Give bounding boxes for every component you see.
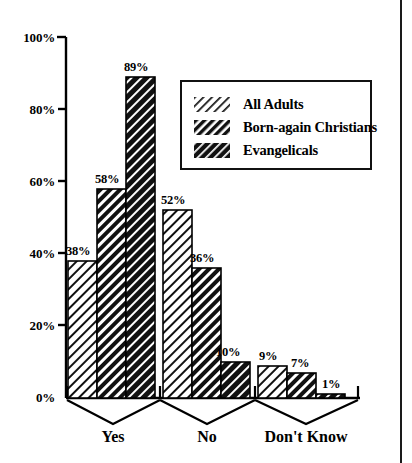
value-label-no-born-again: 36% (190, 252, 214, 264)
value-label-dontknow-born-again: 7% (291, 357, 309, 369)
legend-swatch-all-adults (194, 97, 230, 112)
bar-no-all-adults (163, 210, 192, 398)
legend-item-all-adults: All Adults (194, 96, 303, 113)
chart-legend: All Adults Born-again Christians Evangel… (180, 80, 372, 170)
bar-no-born-again (192, 268, 221, 398)
value-label-dontknow-all-adults: 9% (259, 350, 277, 362)
legend-swatch-born-again (194, 120, 230, 135)
value-label-yes-born-again: 58% (95, 173, 119, 185)
value-label-yes-evangelicals: 89% (124, 61, 148, 73)
bar-dontknow-born-again (287, 373, 316, 398)
bar-yes-evangelicals (126, 77, 155, 398)
x-axis-category-brackets (67, 400, 358, 424)
x-label-no: No (167, 428, 247, 445)
legend-label-all-adults: All Adults (243, 97, 303, 112)
legend-label-evangelicals: Evangelicals (243, 143, 318, 158)
legend-item-born-again: Born-again Christians (194, 119, 377, 136)
bar-dontknow-evangelicals (316, 394, 345, 398)
x-label-dont-know: Don't Know (246, 428, 366, 445)
bar-dontknow-all-adults (258, 366, 287, 398)
value-label-dontknow-evangelicals: 1% (322, 378, 340, 390)
legend-item-evangelicals: Evangelicals (194, 142, 318, 159)
chart-figure: 100% 80% 60% 40% 20% 0% (0, 0, 412, 463)
value-label-no-evangelicals: 10% (216, 346, 240, 358)
y-axis-ticks (57, 37, 66, 325)
bar-group-yes (68, 77, 155, 398)
x-label-yes: Yes (73, 428, 153, 445)
bar-no-evangelicals (221, 362, 250, 398)
plot-area (0, 0, 412, 463)
legend-swatch-evangelicals (194, 143, 230, 158)
bar-yes-all-adults (68, 261, 97, 398)
legend-label-born-again: Born-again Christians (243, 120, 377, 135)
value-label-yes-all-adults: 38% (66, 245, 90, 257)
bar-group-no (163, 210, 250, 398)
value-label-no-all-adults: 52% (161, 194, 185, 206)
bar-yes-born-again (97, 189, 126, 398)
